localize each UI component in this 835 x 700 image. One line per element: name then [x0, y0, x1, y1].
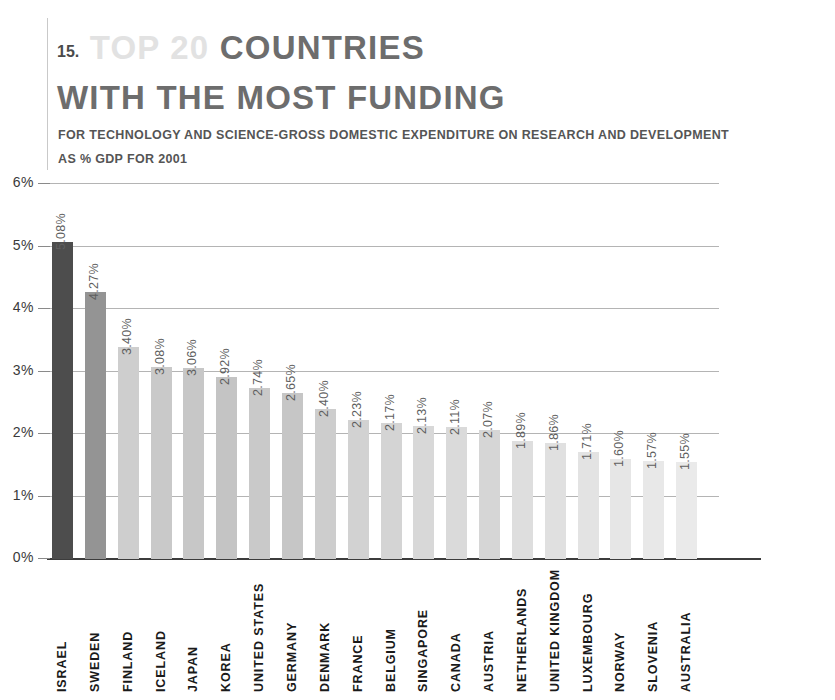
value-label-france: 2.23% [350, 391, 364, 428]
bar-austria[interactable] [479, 430, 500, 559]
bar-chart-plot: 6%5%4%3%2%1%0% 5.08%4.27%3.40%3.08%3.06%… [0, 0, 835, 700]
value-label-singapore: 2.13% [415, 397, 429, 434]
chart-page: 15. TOP 20 COUNTRIES WITH THE MOST FUNDI… [0, 0, 835, 700]
bars-layer [0, 0, 835, 559]
bar-slovenia[interactable] [643, 461, 664, 559]
category-label-japan: JAPAN [186, 646, 200, 692]
bar-canada[interactable] [446, 427, 467, 559]
category-label-denmark: DENMARK [318, 622, 332, 692]
bar-united-kingdom[interactable] [545, 443, 566, 559]
bar-australia[interactable] [676, 462, 697, 559]
bar-luxembourg[interactable] [578, 452, 599, 559]
category-label-luxembourg: LUXEMBOURG [581, 593, 595, 692]
value-label-israel: 5.08% [54, 213, 68, 250]
category-label-canada: CANADA [449, 632, 463, 692]
category-label-france: FRANCE [351, 635, 365, 692]
category-label-belgium: BELGIUM [384, 628, 398, 692]
category-label-germany: GERMANY [285, 622, 299, 692]
value-label-korea: 2.92% [218, 348, 232, 385]
category-label-united-kingdom: UNITED KINGDOM [548, 569, 562, 692]
bar-norway[interactable] [610, 459, 631, 559]
value-label-belgium: 2.17% [383, 394, 397, 431]
category-label-finland: FINLAND [121, 631, 135, 692]
bar-belgium[interactable] [381, 423, 402, 559]
value-label-denmark: 2.40% [317, 380, 331, 417]
value-label-netherlands: 1.89% [514, 412, 528, 449]
category-label-norway: NORWAY [613, 632, 627, 692]
bar-japan[interactable] [183, 368, 204, 559]
category-label-austria: AUSTRIA [482, 630, 496, 692]
category-label-iceland: ICELAND [154, 630, 168, 692]
bar-france[interactable] [348, 420, 369, 559]
category-label-netherlands: NETHERLANDS [515, 588, 529, 692]
bar-united-states[interactable] [249, 388, 270, 559]
category-label-sweden: SWEDEN [88, 632, 102, 692]
category-label-israel: ISRAEL [55, 641, 69, 692]
bar-singapore[interactable] [413, 426, 434, 559]
bar-germany[interactable] [282, 393, 303, 559]
category-label-slovenia: SLOVENIA [646, 621, 660, 692]
value-label-united-kingdom: 1.86% [547, 414, 561, 451]
value-label-united-states: 2.74% [251, 359, 265, 396]
bar-finland[interactable] [118, 347, 139, 560]
value-label-germany: 2.65% [284, 364, 298, 401]
bar-netherlands[interactable] [512, 441, 533, 559]
bar-denmark[interactable] [315, 409, 336, 559]
bar-sweden[interactable] [85, 292, 106, 559]
value-label-slovenia: 1.57% [645, 432, 659, 469]
value-label-finland: 3.40% [120, 318, 134, 355]
value-label-iceland: 3.08% [153, 338, 167, 375]
category-label-singapore: SINGAPORE [416, 609, 430, 692]
category-label-united-states: UNITED STATES [252, 583, 266, 692]
bar-israel[interactable] [52, 242, 73, 560]
value-label-sweden: 4.27% [87, 263, 101, 300]
category-label-korea: KOREA [219, 642, 233, 692]
bar-korea[interactable] [216, 377, 237, 560]
value-label-norway: 1.60% [612, 430, 626, 467]
value-label-austria: 2.07% [481, 401, 495, 438]
value-label-australia: 1.55% [678, 433, 692, 470]
value-label-luxembourg: 1.71% [580, 423, 594, 460]
value-label-canada: 2.11% [448, 399, 462, 435]
category-label-australia: AUSTRALIA [679, 612, 693, 692]
bar-iceland[interactable] [151, 367, 172, 560]
value-label-japan: 3.06% [185, 339, 199, 376]
